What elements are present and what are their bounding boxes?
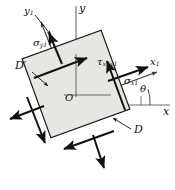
sigma-y1-arrow-bottom bbox=[93, 135, 104, 168]
corner-label-d: D bbox=[134, 124, 143, 135]
tau-sub-1b: 1 bbox=[113, 60, 117, 67]
sigma-y1-label: σy1 bbox=[33, 38, 47, 49]
sigma-y1-base: σ bbox=[33, 37, 40, 48]
axis-x1-label: x1 bbox=[150, 57, 160, 68]
origin-label: O bbox=[65, 93, 73, 103]
axis-x1-subscript: 1 bbox=[156, 60, 160, 67]
theta-arc bbox=[148, 89, 150, 105]
axis-y1-subscript: 1 bbox=[30, 9, 34, 16]
sigma-x1-sub2: 1 bbox=[134, 79, 138, 86]
axis-y-label: y bbox=[79, 3, 85, 14]
axis-x-label: x bbox=[163, 106, 169, 117]
corner-label-d-prime: D′ bbox=[15, 60, 26, 71]
diagram-canvas bbox=[0, 0, 175, 190]
sigma-y1-sub2: 1 bbox=[43, 41, 47, 48]
axis-y1-label: y1 bbox=[24, 6, 34, 17]
tau-x1y1-label: τx1y1 bbox=[97, 57, 117, 68]
stress-element-figure: y x y1 x1 θ O D D′ σy1 σx1 τx1y1 bbox=[0, 0, 175, 190]
sigma-x1-base: σ bbox=[124, 75, 131, 86]
leader-d bbox=[113, 118, 131, 129]
leader-y1 bbox=[35, 15, 51, 35]
sigma-x1-label: σx1 bbox=[124, 76, 138, 87]
theta-label: θ bbox=[140, 84, 146, 94]
tau-arrow-bottom bbox=[64, 131, 114, 149]
sigma-x1-arrow-left bbox=[10, 106, 44, 119]
